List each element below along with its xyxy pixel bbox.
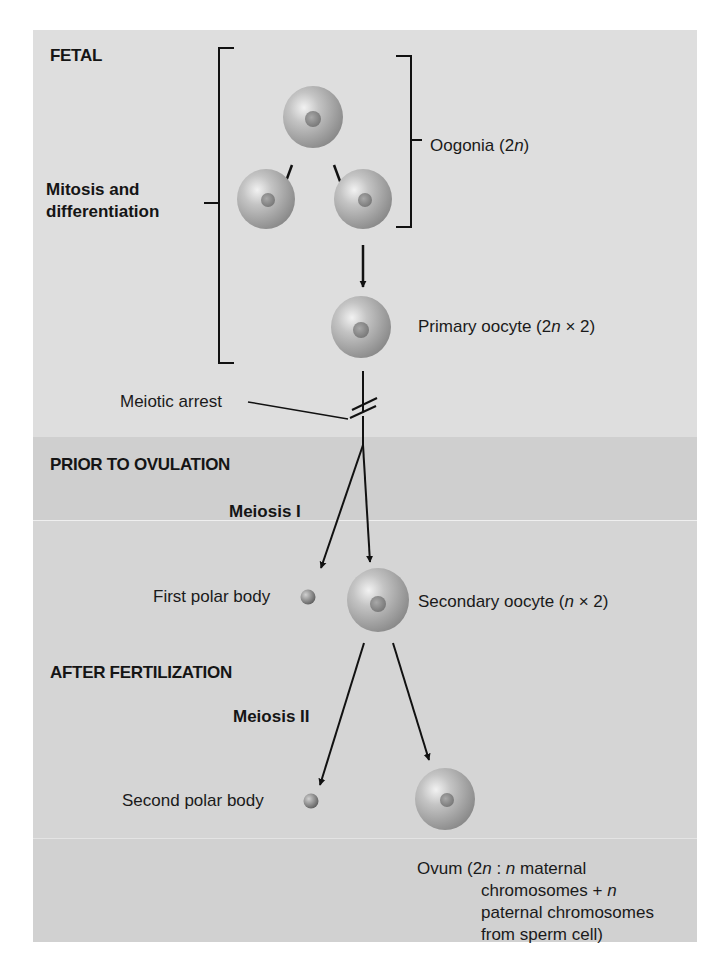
label-secondary-oocyte: Secondary oocyte (n × 2) bbox=[418, 592, 608, 612]
ovum-cell bbox=[415, 768, 475, 830]
meiosis1-arrow-oocyte bbox=[363, 445, 370, 562]
section-after-fertilization: AFTER FERTILIZATION bbox=[50, 663, 232, 683]
diagram-graphics bbox=[0, 0, 728, 970]
section-fetal: FETAL bbox=[50, 46, 102, 66]
label-first-polar-body: First polar body bbox=[153, 587, 270, 607]
label-primary-oocyte: Primary oocyte (2n × 2) bbox=[418, 317, 595, 337]
label-meiotic-arrest: Meiotic arrest bbox=[120, 392, 222, 412]
phase-meiosis-1: Meiosis I bbox=[229, 502, 301, 522]
phase-mitosis-line1: Mitosis and bbox=[46, 180, 140, 200]
first-polar-body-cell bbox=[301, 590, 316, 605]
meiosis1-arrow-polar bbox=[321, 445, 363, 568]
label-ovum: Ovum (2n : n maternal chromosomes + n pa… bbox=[417, 858, 654, 946]
meiosis2-arrow-ovum bbox=[393, 643, 429, 760]
section-prior-to-ovulation: PRIOR TO OVULATION bbox=[50, 455, 230, 475]
oogonium-cell-right bbox=[334, 169, 392, 229]
phase-meiosis-2: Meiosis II bbox=[233, 707, 310, 727]
meiosis2-arrow-polar bbox=[320, 643, 364, 785]
label-oogonia: Oogonia (2n) bbox=[430, 136, 529, 156]
primary-oocyte-cell bbox=[331, 296, 391, 358]
oogonium-cell-left bbox=[237, 169, 295, 229]
mitosis-bracket bbox=[204, 48, 234, 363]
label-second-polar-body: Second polar body bbox=[122, 791, 264, 811]
phase-mitosis-line2: differentiation bbox=[46, 202, 159, 222]
meiotic-arrest-leader bbox=[248, 402, 348, 419]
oogonia-bracket bbox=[396, 56, 422, 227]
oogonium-cell-top bbox=[283, 86, 343, 148]
secondary-oocyte-cell bbox=[347, 568, 409, 632]
second-polar-body-cell bbox=[304, 794, 319, 809]
